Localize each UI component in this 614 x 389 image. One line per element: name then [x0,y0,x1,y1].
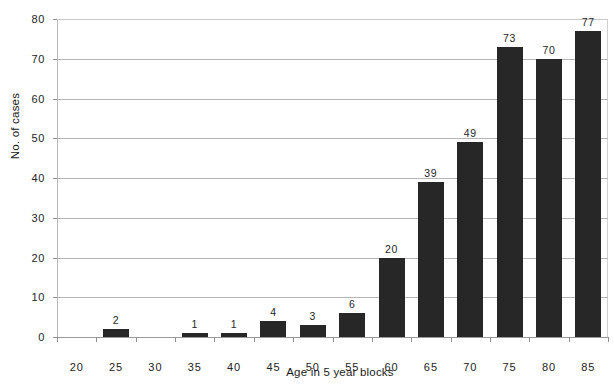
plot-area: 80706050403020100 211436203949737077 202… [57,19,608,337]
x-tick-mark [254,337,255,342]
x-tick-mark [529,337,530,342]
bar-group [57,19,96,337]
y-tick-label: 50 [11,133,45,144]
bar [339,313,365,337]
bar-value-label: 20 [385,244,398,255]
bar-value-label: 77 [582,17,595,28]
x-axis-title-text: Age in 5 year blocks [286,366,394,378]
bar [300,325,326,337]
x-tick-mark [293,337,294,342]
y-axis-title: No. of cases [9,66,21,186]
bar-value-label: 2 [113,315,120,326]
x-tick-mark [608,337,609,342]
bar-group: 2 [96,19,135,337]
bar-value-label: 1 [191,319,198,330]
y-tick-label: 80 [11,14,45,25]
bar-value-label: 73 [503,33,516,44]
y-tick-label: 0 [11,332,45,343]
bar-group: 6 [333,19,372,337]
bars-layer: 211436203949737077 [57,19,608,337]
bar-group: 77 [569,19,608,337]
bar-group: 20 [372,19,411,337]
bar-value-label: 1 [231,319,238,330]
bar-group: 70 [529,19,568,337]
bar-group: 1 [175,19,214,337]
bar-value-label: 3 [310,311,317,322]
x-tick-mark [57,337,58,342]
bar [457,142,483,337]
bar-group: 73 [490,19,529,337]
bar-value-label: 6 [349,299,356,310]
bar [536,59,562,337]
x-tick-mark [569,337,570,342]
bar-group: 1 [214,19,253,337]
y-tick-label: 20 [11,253,45,264]
bar-group [136,19,175,337]
bar [418,182,444,337]
x-axis-title: Age in 5 year blocks [0,366,614,378]
x-tick-mark [451,337,452,342]
x-tick-mark [175,337,176,342]
y-tick-label: 30 [11,213,45,224]
x-tick-mark [96,337,97,342]
x-tick-mark [333,337,334,342]
bar [221,333,247,337]
bar [379,258,405,338]
x-tick-mark [411,337,412,342]
y-tick-label: 70 [11,54,45,65]
bar-group: 3 [293,19,332,337]
bar-group: 4 [254,19,293,337]
x-tick-mark [490,337,491,342]
y-tick-label: 40 [11,173,45,184]
bar-group: 39 [411,19,450,337]
x-tick-mark [136,337,137,342]
bar [575,31,601,337]
x-tick-mark [214,337,215,342]
bar-value-label: 4 [270,307,277,318]
bar-value-label: 70 [542,45,555,56]
bar-chart: No. of cases 80706050403020100 211436203… [0,0,614,389]
bar [103,329,129,337]
y-tick-label: 60 [11,94,45,105]
x-tick-mark [372,337,373,342]
y-tick-label: 10 [11,292,45,303]
bar [260,321,286,337]
bar-value-label: 39 [424,168,437,179]
bar-group: 49 [451,19,490,337]
bar [182,333,208,337]
bar-value-label: 49 [464,128,477,139]
bar [497,47,523,337]
